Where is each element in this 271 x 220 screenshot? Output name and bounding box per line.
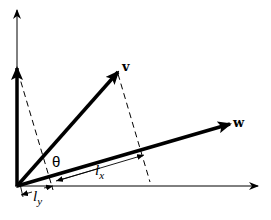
label-theta: θ xyxy=(52,154,60,169)
diagram-svg xyxy=(0,0,271,220)
label-ly: ly xyxy=(33,189,42,207)
label-v: v xyxy=(122,60,130,73)
vector-w xyxy=(17,124,230,186)
diagram-canvas: v w θ lx ly xyxy=(0,0,271,220)
label-lx-sub: x xyxy=(99,169,104,181)
projection-dashed-from-vertical xyxy=(18,72,53,190)
projection-dashed-from-v xyxy=(118,74,150,182)
label-lx: lx xyxy=(95,163,104,181)
label-ly-sub: y xyxy=(37,195,42,207)
label-w: w xyxy=(233,116,244,129)
